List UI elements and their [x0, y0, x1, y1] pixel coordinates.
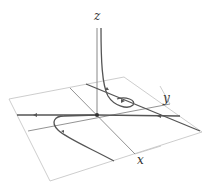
- y-axis-label: y: [162, 91, 170, 105]
- trajectory-upper-loop: [101, 28, 134, 107]
- arrow-right-icon: [33, 113, 37, 117]
- x-axis-label: x: [137, 153, 144, 167]
- phase-portrait-diagram: z y x: [0, 0, 214, 187]
- trajectory-diagonal: [86, 84, 200, 131]
- grid-line-y-axis: [28, 104, 170, 131]
- origin-point: [95, 113, 99, 117]
- trajectories: [17, 28, 200, 161]
- z-axis-label: z: [93, 9, 101, 23]
- trajectory-lower-loop: [54, 115, 114, 161]
